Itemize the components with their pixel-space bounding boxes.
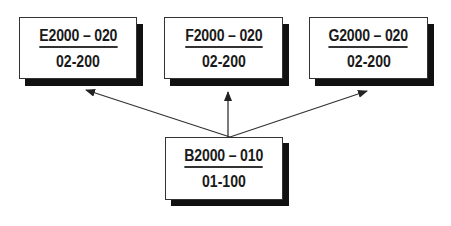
node-code: B2000 – 010 (185, 147, 264, 168)
node-code: E2000 – 020 (39, 27, 117, 48)
arrow-b-to-g (230, 91, 367, 137)
node-code: F2000 – 020 (185, 27, 262, 48)
node-box: E2000 – 020 02-200 (19, 17, 137, 79)
node-sub: 02-200 (347, 53, 391, 70)
node-sub: 01-100 (202, 173, 246, 190)
node-sub: 02-200 (56, 53, 100, 70)
node-box: G2000 – 020 02-200 (309, 17, 428, 79)
arrow-b-to-e (86, 90, 230, 137)
node-box: F2000 – 020 02-200 (164, 17, 283, 79)
node-sub: 02-200 (202, 53, 246, 70)
node-code: G2000 – 020 (329, 27, 408, 48)
node-box: B2000 – 010 01-100 (165, 137, 283, 200)
